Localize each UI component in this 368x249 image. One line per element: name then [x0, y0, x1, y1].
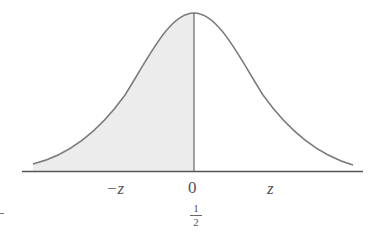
zero-label: 0	[188, 179, 197, 196]
left-edge-mark	[0, 213, 4, 214]
neg-z-label: −z	[106, 180, 124, 197]
fraction-numerator: 1	[190, 203, 202, 214]
fraction-denominator: 2	[190, 217, 202, 228]
one-half-fraction: 1 2	[190, 203, 202, 228]
normal-curve-diagram	[0, 0, 368, 249]
z-label: z	[267, 180, 274, 197]
shaded-area	[33, 13, 194, 171]
